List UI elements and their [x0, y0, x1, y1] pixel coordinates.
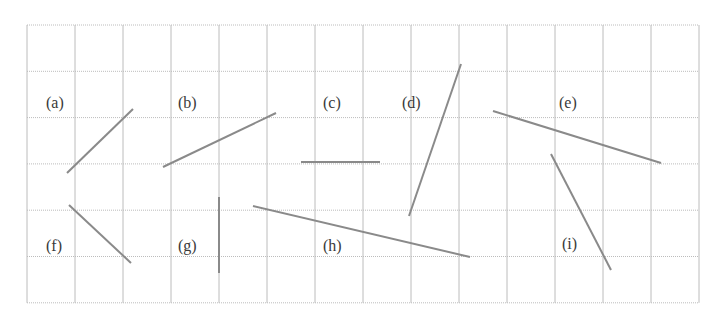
label-d: (d): [402, 94, 421, 112]
label-g: (g): [178, 237, 197, 255]
labels: (a)(b)(c)(d)(e)(f)(g)(h)(i): [46, 94, 577, 255]
label-i: (i): [562, 235, 577, 253]
line-segment-grid-diagram: (a)(b)(c)(d)(e)(f)(g)(h)(i): [0, 0, 720, 320]
label-h: (h): [323, 237, 342, 255]
label-e: (e): [559, 94, 577, 112]
segment-h: [253, 206, 470, 257]
segment-e: [493, 111, 661, 163]
label-a: (a): [46, 94, 64, 112]
segment-f: [69, 205, 131, 263]
label-c: (c): [323, 94, 341, 112]
segment-d: [409, 64, 461, 216]
segment-i: [551, 154, 611, 270]
label-f: (f): [46, 237, 62, 255]
label-b: (b): [178, 94, 197, 112]
